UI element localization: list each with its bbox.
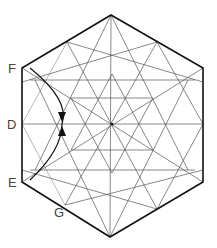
hexagon-diagram	[0, 0, 217, 248]
label-G: G	[54, 206, 64, 219]
center-point	[111, 123, 114, 126]
construction-lines	[22, 15, 203, 237]
label-E: E	[8, 176, 17, 189]
label-F: F	[8, 62, 16, 75]
label-D: D	[7, 118, 16, 131]
